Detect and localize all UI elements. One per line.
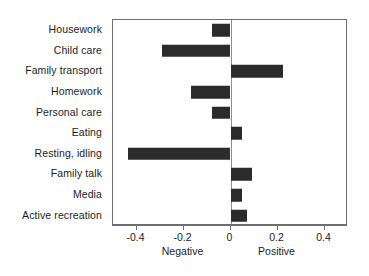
bar-chart: HouseworkChild careFamily transportHomew… [0, 0, 369, 276]
bar [162, 45, 230, 58]
category-axis-labels: HouseworkChild careFamily transportHomew… [0, 19, 107, 225]
bar-row [113, 41, 346, 62]
bar-row [113, 205, 346, 226]
bar [231, 168, 252, 181]
x-tick [324, 225, 325, 230]
category-label: Child care [54, 44, 107, 56]
bar-row [113, 144, 346, 165]
bar-row [113, 123, 346, 144]
negative-side-label: Negative [162, 245, 203, 257]
plot-area [112, 19, 347, 225]
bar [212, 106, 230, 119]
bar [128, 148, 230, 161]
x-tick-label: -0.2 [173, 231, 191, 243]
bar-row [113, 164, 346, 185]
category-label: Resting, idling [35, 147, 107, 159]
bar [231, 127, 243, 140]
category-label: Media [73, 188, 107, 200]
bar [231, 189, 243, 202]
bar [191, 86, 231, 99]
x-tick [136, 225, 137, 230]
x-tick [277, 225, 278, 230]
positive-side-label: Positive [258, 245, 295, 257]
x-tick-label: 0.4 [316, 231, 331, 243]
bar-row [113, 82, 346, 103]
bar-row [113, 20, 346, 41]
bar-row [113, 185, 346, 206]
category-label: Family talk [51, 167, 107, 179]
x-tick-label: -0.4 [126, 231, 144, 243]
category-label: Family transport [25, 64, 107, 76]
x-tick [183, 225, 184, 230]
category-label: Personal care [36, 106, 107, 118]
category-label: Housework [49, 23, 107, 35]
bar [212, 24, 230, 37]
category-label: Active recreation [22, 209, 107, 221]
bar-row [113, 61, 346, 82]
x-tick [230, 225, 231, 230]
bar [231, 209, 247, 222]
category-label: Homework [51, 85, 107, 97]
category-label: Eating [72, 126, 107, 138]
bars-layer [113, 20, 346, 224]
x-tick-label: 0.2 [269, 231, 284, 243]
bar [231, 65, 284, 78]
bar-row [113, 102, 346, 123]
x-tick-label: 0 [227, 231, 233, 243]
